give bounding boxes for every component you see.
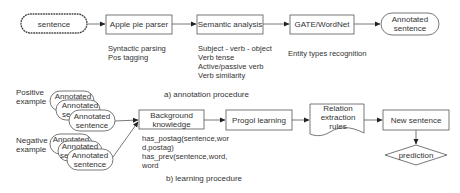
stack-item: Annotated sentence <box>69 110 115 131</box>
output-label-line2: sentence <box>394 24 427 33</box>
rules-label-line3: rules <box>329 122 346 131</box>
node-input-sentence: sentence <box>21 14 87 33</box>
node-new-sentence: New sentence <box>383 110 449 130</box>
semantic-note: Verb tense <box>198 53 234 62</box>
background-note: d,postag) <box>142 143 174 152</box>
parser-label: Apple pie parser <box>110 20 169 29</box>
parser-note: Pos tagging <box>108 53 148 62</box>
gate-note: Entity types recognition <box>288 49 367 58</box>
node-annotated-sentence-output: Annotated sentence <box>381 13 439 35</box>
progol-label: Progol learning <box>232 116 286 125</box>
negative-example-label: example <box>16 145 47 154</box>
positive-example-stack: Annotated Annotated se Annotated sentenc… <box>50 91 115 131</box>
node-apple-pie-parser: Apple pie parser <box>106 15 172 34</box>
rules-label-line2: extraction <box>321 113 356 122</box>
edge-negative-background <box>113 122 138 157</box>
node-background-knowledge: Background knowledge <box>139 110 204 129</box>
gate-label: GATE/WordNet <box>295 20 351 29</box>
edge-positive-background <box>115 120 138 121</box>
background-note: word <box>141 161 158 170</box>
rules-label-line1: Relation <box>323 104 352 113</box>
svg-text:Annotated: Annotated <box>62 101 98 110</box>
semantic-label: Semantic analysis <box>198 20 262 29</box>
svg-text:Annotated: Annotated <box>72 151 108 160</box>
node-gate-wordnet: GATE/WordNet <box>290 15 354 34</box>
node-relation-extraction-rules: Relation extraction rules <box>310 104 364 136</box>
negative-example-label: Negative <box>16 136 48 145</box>
prediction-label: prediction <box>399 151 434 160</box>
semantic-note: Subject - verb - object <box>198 44 273 53</box>
svg-text:Annotated: Annotated <box>74 112 110 121</box>
semantic-note: Active/passive verb <box>198 62 263 71</box>
svg-text:sentence: sentence <box>74 160 107 169</box>
output-label-line1: Annotated <box>392 15 428 24</box>
semantic-note: Verb similarity <box>198 71 245 80</box>
positive-example-label: example <box>16 97 47 106</box>
node-prediction: prediction <box>385 145 447 165</box>
svg-text:sentence: sentence <box>76 121 109 130</box>
node-progol-learning: Progol learning <box>226 110 292 130</box>
background-label-line1: Background <box>150 111 193 120</box>
parser-note: Syntactic parsing <box>108 44 166 53</box>
positive-example-label: Positive <box>16 88 45 97</box>
node-semantic-analysis: Semantic analysis <box>197 15 263 34</box>
flow-diagram: sentence Apple pie parser Syntactic pars… <box>0 0 460 193</box>
negative-example-stack: Annotated Annotated se Annotated sentenc… <box>50 134 113 170</box>
new-sentence-label: New sentence <box>391 116 442 125</box>
background-label-line2: knowledge <box>152 120 191 129</box>
caption-annotation: a) annotation procedure <box>164 90 250 99</box>
background-note: has_postag(sentence,wor <box>142 134 229 143</box>
input-sentence-label: sentence <box>38 20 71 29</box>
background-note: has_prev(sentence,word, <box>142 152 227 161</box>
stack-item: Annotated sentence <box>67 149 113 170</box>
caption-learning: b) learning procedure <box>166 174 243 183</box>
